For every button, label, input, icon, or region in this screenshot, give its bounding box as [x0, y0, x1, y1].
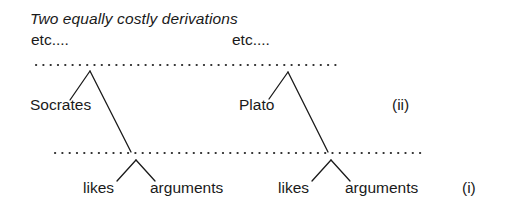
derivation-triangles: [70, 71, 350, 181]
triangle-branch: [90, 71, 131, 152]
triangle-branch: [269, 72, 288, 99]
triangle-branch: [331, 160, 350, 181]
triangle-branch: [288, 72, 328, 152]
triangle-branch: [312, 160, 331, 181]
triangle-branch: [117, 160, 136, 181]
triangle-branch: [70, 71, 90, 100]
derivation-figure: Two equally costly derivations etc.... e…: [0, 0, 506, 211]
tier-dotted-lines: [36, 65, 427, 153]
diagram-lines: [0, 0, 506, 211]
triangle-branch: [136, 160, 155, 181]
